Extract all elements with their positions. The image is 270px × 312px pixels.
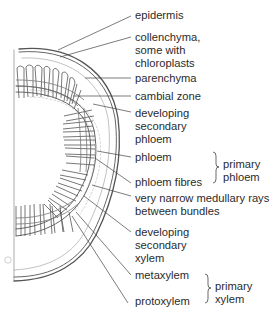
primary-phloem-brace — [213, 152, 219, 183]
label-parenchyma: parenchyma — [135, 72, 197, 85]
label-phloem-fibres: phloem fibres — [135, 176, 202, 189]
label-metaxylem: metaxylem — [135, 269, 189, 282]
label-developing-secondary-xylem: developing secondary xylem — [135, 226, 189, 265]
label-cambial-zone: cambial zone — [135, 90, 201, 103]
vascular-bundles-middle — [63, 108, 95, 172]
label-protoxylem: protoxylem — [135, 295, 190, 308]
label-collenchyma: collenchyma, some with chloroplasts — [135, 31, 200, 70]
label-epidermis: epidermis — [135, 9, 184, 22]
vascular-bundles-upper — [16, 65, 84, 109]
label-developing-secondary-phloem: developing secondary phloem — [135, 107, 189, 146]
label-medullary-rays: very narrow medullary rays between bundl… — [135, 192, 269, 218]
label-primary-xylem: primary xylem — [215, 280, 252, 306]
label-phloem: phloem — [135, 151, 172, 164]
corner-mark — [5, 257, 11, 263]
primary-xylem-brace — [205, 274, 211, 303]
label-primary-phloem: primary phloem — [223, 158, 260, 184]
